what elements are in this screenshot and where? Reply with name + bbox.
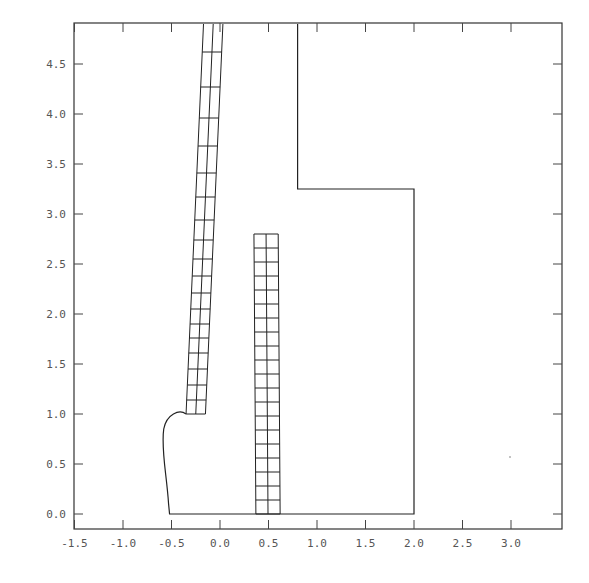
x-tick-label: 0.5 — [259, 537, 279, 550]
y-tick-label: 4.5 — [46, 58, 66, 71]
x-tick-label: -1.0 — [110, 537, 137, 550]
left-inclined-mesh — [186, 24, 223, 414]
x-tick-label: 3.0 — [501, 537, 521, 550]
y-tick-label: 4.0 — [46, 108, 66, 121]
y-tick-label: 2.5 — [46, 258, 66, 271]
x-tick-label: 2.5 — [453, 537, 473, 550]
stray-dot — [509, 456, 511, 458]
y-tick-label: 3.0 — [46, 208, 66, 221]
x-tick-label: 2.0 — [404, 537, 424, 550]
x-tick-label: -1.5 — [61, 537, 88, 550]
y-tick-label: 1.5 — [46, 358, 66, 371]
y-axis-ticks: 0.00.51.01.52.02.53.03.54.04.5 — [46, 58, 562, 521]
mesh-column-line — [196, 24, 213, 414]
x-axis-ticks: -1.5-1.0-0.50.00.51.01.52.02.53.0 — [61, 23, 521, 550]
x-tick-label: 1.5 — [356, 537, 376, 550]
y-tick-label: 2.0 — [46, 308, 66, 321]
x-tick-label: -0.5 — [158, 537, 185, 550]
mesh-plot: -1.5-1.0-0.50.00.51.01.52.02.53.0 0.00.5… — [0, 0, 589, 583]
y-tick-label: 1.0 — [46, 408, 66, 421]
y-tick-label: 3.5 — [46, 158, 66, 171]
axes-frame — [74, 23, 562, 529]
plot-frame — [74, 23, 562, 529]
mesh-column-line — [205, 24, 222, 414]
x-tick-label: 0.0 — [210, 537, 230, 550]
y-tick-label: 0.5 — [46, 458, 66, 471]
x-tick-label: 1.0 — [307, 537, 327, 550]
mesh-column-line — [186, 24, 203, 414]
y-tick-label: 0.0 — [46, 508, 66, 521]
right-vertical-mesh — [254, 234, 280, 514]
